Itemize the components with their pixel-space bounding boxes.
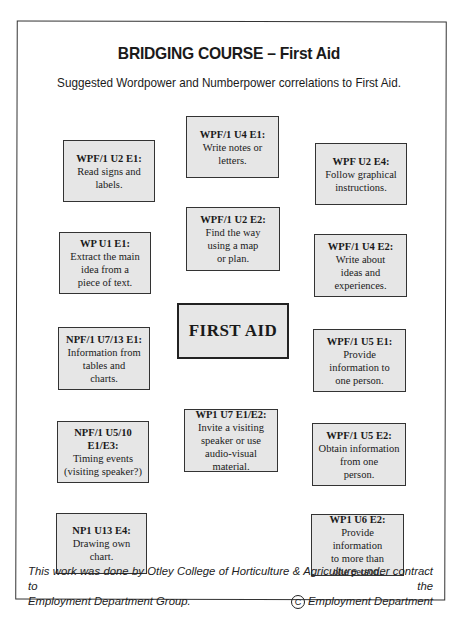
box-description: Read signs and labels. <box>77 165 141 191</box>
copyright-holder: Employment Department <box>308 595 433 607</box>
box-code: WPF/1 U4 E1: <box>200 128 265 141</box>
footer-credit: This work was done by Otley College of H… <box>28 564 433 609</box>
box-code: WPF/1 U2 E2: <box>200 213 265 226</box>
footer-copyright: CEmployment Department <box>291 594 433 609</box>
box-description: Timing events (visiting speaker?) <box>64 452 142 478</box>
box-description: Follow graphical instructions. <box>325 168 396 194</box>
box-code: NPF/1 U5/10 E1/E3: <box>62 426 144 452</box>
box-description: Obtain information from one person. <box>319 442 400 481</box>
correlation-box: WPF/1 U2 E2: Find the way using a map or… <box>186 207 280 271</box>
correlation-box: WPF/1 U5 E2: Obtain information from one… <box>312 423 406 486</box>
box-description: Write notes or letters. <box>203 141 263 167</box>
correlation-box: WP1 U7 E1/E2: Invite a visiting speaker … <box>184 409 278 472</box>
copyright-icon: C <box>291 595 305 609</box>
correlation-box: NPF/1 U7/13 E1: Information from tables … <box>58 327 150 390</box>
box-code: WPF/1 U4 E2: <box>328 240 393 253</box>
correlation-box: NPF/1 U5/10 E1/E3: Timing events (visiti… <box>57 421 149 483</box>
box-description: Write about ideas and experiences. <box>334 253 386 292</box>
first-aid-center-box: FIRST AID <box>177 303 289 359</box>
box-description: Drawing own chart. <box>73 537 130 563</box>
footer-organization: Employment Department Group. <box>28 594 191 609</box>
box-description: Provide information to one person. <box>329 348 389 387</box>
box-description: Invite a visiting speaker or use audio-v… <box>189 421 273 473</box>
page-subtitle: Suggested Wordpower and Numberpower corr… <box>23 75 435 90</box>
box-description: Find the way using a map or plan. <box>206 226 261 265</box>
correlation-box: WPF U2 E4: Follow graphical instructions… <box>315 143 407 205</box>
box-description: Information from tables and charts. <box>67 346 140 385</box>
box-code: WPF/1 U2 E1: <box>76 152 141 165</box>
box-code: WPF U2 E4: <box>333 155 390 168</box>
correlation-box: WP U1 E1: Extract the main idea from a p… <box>59 232 151 294</box>
correlation-box: WPF/1 U5 E1: Provide information to one … <box>313 329 406 392</box>
box-code: NPF/1 U7/13 E1: <box>66 333 142 346</box>
footer-line-2: Employment Department Group. CEmployment… <box>28 594 433 609</box>
box-code: WP U1 E1: <box>80 237 130 250</box>
box-code: WPF/1 U5 E1: <box>327 335 392 348</box>
box-description: Extract the main idea from a piece of te… <box>70 250 139 289</box>
correlation-box: WPF/1 U4 E2: Write about ideas and exper… <box>314 234 407 297</box>
correlation-box: WPF/1 U4 E1: Write notes or letters. <box>186 116 279 178</box>
box-code: WP1 U7 E1/E2: <box>195 408 266 421</box>
correlation-box: WPF/1 U2 E1: Read signs and labels. <box>63 140 155 202</box>
footer-line-1: This work was done by Otley College of H… <box>28 564 433 594</box>
box-code: WP1 U6 E2: <box>330 513 386 526</box>
box-code: WPF/1 U5 E2: <box>326 429 391 442</box>
box-code: NP1 U13 E4: <box>72 524 130 537</box>
page-title: BRIDGING COURSE – First Aid <box>18 44 439 64</box>
